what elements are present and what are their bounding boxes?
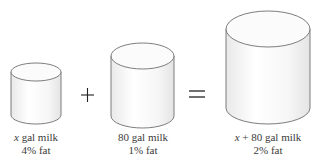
label-milk-b: 80 gal milk 1% fat xyxy=(107,131,179,157)
equals-icon xyxy=(189,91,205,97)
label-milk-a-fat: 4% fat xyxy=(6,144,66,157)
label-mixture: x + 80 gal milk 2% fat xyxy=(222,131,314,157)
quantity-text: gal milk xyxy=(19,131,58,143)
label-mixture-fat: 2% fat xyxy=(222,144,314,157)
quantity-text: 80 gal milk xyxy=(118,131,168,143)
mixture-diagram: x gal milk 4% fat 80 gal milk 1% fat x +… xyxy=(0,0,318,162)
label-milk-a-quantity: x gal milk xyxy=(6,131,66,144)
label-milk-b-fat: 1% fat xyxy=(107,144,179,157)
container-milk-b-icon xyxy=(111,43,174,128)
container-mixture-icon xyxy=(226,11,310,124)
label-mixture-quantity: x + 80 gal milk xyxy=(222,131,314,144)
quantity-text: + 80 gal milk xyxy=(240,131,302,143)
label-milk-b-quantity: 80 gal milk xyxy=(107,131,179,144)
label-milk-a: x gal milk 4% fat xyxy=(6,131,66,157)
container-milk-a-icon xyxy=(11,63,61,124)
plus-icon xyxy=(81,88,94,102)
